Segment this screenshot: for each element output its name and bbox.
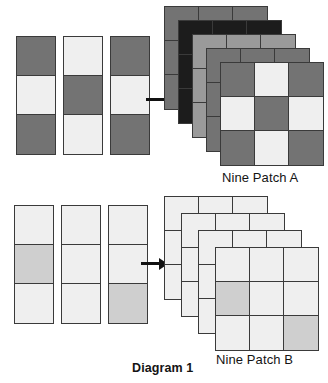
patch-b-front-cell-6 (284, 282, 318, 316)
patch-b-front-cell-7 (216, 316, 250, 350)
patch-b-front-cell-4 (216, 282, 250, 316)
nine-patch-b-label: Nine Patch B (216, 352, 293, 367)
strip-a-2-cell-1 (64, 37, 102, 76)
patch-a-front-cell-3 (289, 63, 323, 97)
strip-b-2-cell-2 (62, 245, 100, 284)
strip-a-2-cell-3 (64, 115, 102, 154)
patch-a-front-cell-8 (255, 131, 289, 165)
patch-b-front-cell-3 (284, 248, 318, 282)
strip-a-1-cell-1 (17, 37, 55, 76)
strip-b-1-cell-1 (15, 206, 53, 245)
strip-a-3-cell-2 (111, 76, 149, 115)
arrow-shaft (141, 262, 161, 265)
diagram-title: Diagram 1 (132, 361, 193, 375)
nine-patch-a-label: Nine Patch A (222, 170, 298, 185)
strip-group-b (14, 205, 148, 324)
strip-group-a (16, 36, 150, 155)
patch-a-front-cell-9 (289, 131, 323, 165)
arrow-shaft (146, 98, 166, 101)
strip-b-3-cell-1 (109, 206, 147, 245)
patch-a-front-cell-1 (221, 63, 255, 97)
nine-patch-b-stack (164, 196, 324, 356)
strip-a-3-cell-1 (111, 37, 149, 76)
patch-b-front-cell-2 (250, 248, 284, 282)
strip-a-3-cell-3 (111, 115, 149, 154)
strip-b-3-cell-3 (109, 284, 147, 323)
strip-a-2 (63, 36, 103, 155)
patch-b-front-cell-1 (216, 248, 250, 282)
strip-a-2-cell-2 (64, 76, 102, 115)
strip-b-2-cell-1 (62, 206, 100, 245)
patch-a-front-cell-5 (255, 97, 289, 131)
diagram-1-figure: Nine Patch A Nine Patch B Diagram 1 (0, 0, 328, 383)
strip-b-1-cell-3 (15, 284, 53, 323)
strip-a-1-cell-2 (17, 76, 55, 115)
patch-b-front-cell-8 (250, 316, 284, 350)
strip-b-1 (14, 205, 54, 324)
patch-a-front (220, 62, 324, 166)
strip-a-1-cell-3 (17, 115, 55, 154)
strip-b-2 (61, 205, 101, 324)
patch-a-front-cell-2 (255, 63, 289, 97)
nine-patch-a-stack (164, 6, 324, 166)
patch-a-front-cell-6 (289, 97, 323, 131)
strip-b-1-cell-2 (15, 245, 53, 284)
strip-b-2-cell-3 (62, 284, 100, 323)
strip-a-3 (110, 36, 150, 155)
patch-b-front-cell-9 (284, 316, 318, 350)
patch-b-front (215, 247, 319, 351)
patch-a-front-cell-7 (221, 131, 255, 165)
patch-a-front-cell-4 (221, 97, 255, 131)
strip-a-1 (16, 36, 56, 155)
patch-b-front-cell-5 (250, 282, 284, 316)
